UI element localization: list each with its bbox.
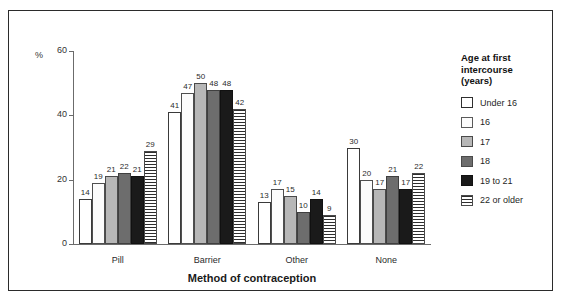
bar[interactable] [412,173,425,244]
bar[interactable] [144,151,157,244]
bar[interactable] [271,189,284,244]
bar-column[interactable]: 21 [386,51,399,244]
legend-swatch-icon [461,97,473,108]
bar-value-label: 17 [375,179,384,187]
x-axis-line [73,244,431,245]
bar-value-label: 29 [146,141,155,149]
bar-column[interactable]: 22 [412,51,425,244]
bar-value-label: 42 [235,99,244,107]
bar-group: 302017211722 [347,51,425,244]
bar-column[interactable]: 22 [118,51,131,244]
x-axis-category-label: None [326,255,446,265]
bar-column[interactable]: 9 [323,51,336,244]
bar[interactable] [92,183,105,244]
bar-group: 141921222129 [79,51,157,244]
bar-column[interactable]: 19 [92,51,105,244]
legend-swatch-icon [461,175,473,186]
y-axis-tick [69,244,74,245]
bar[interactable] [181,93,194,244]
legend-swatch-icon [461,195,473,206]
bar-value-label: 17 [273,179,282,187]
bar-value-label: 22 [414,163,423,171]
y-axis-tick-label: 40 [27,110,67,119]
legend-item-label: Under 16 [480,98,517,108]
chart-frame: % 0204060 141921222129414750484842131715… [8,10,553,291]
bar-value-label: 19 [94,173,103,181]
bar-column[interactable]: 14 [310,51,323,244]
bar[interactable] [258,202,271,244]
bar-value-label: 10 [299,202,308,210]
legend-item-label: 17 [480,137,490,147]
bar-column[interactable]: 17 [399,51,412,244]
bar-column[interactable]: 47 [181,51,194,244]
bar-value-label: 14 [312,189,321,197]
bar-value-label: 22 [120,163,129,171]
bar[interactable] [168,112,181,244]
legend-item[interactable]: 16 [461,114,561,130]
bar-column[interactable]: 17 [373,51,386,244]
bar-column[interactable]: 29 [144,51,157,244]
bar[interactable] [284,196,297,244]
bar-column[interactable]: 21 [131,51,144,244]
bar-column[interactable]: 20 [360,51,373,244]
bar-value-label: 9 [327,205,331,213]
bar-value-label: 50 [196,73,205,81]
bar[interactable] [105,176,118,244]
bar[interactable] [323,215,336,244]
bar-column[interactable]: 15 [284,51,297,244]
bar-value-label: 13 [260,192,269,200]
legend-item-label: 16 [480,117,490,127]
bar[interactable] [194,83,207,244]
legend-items: Under 1616171819 to 2122 or older [461,95,561,209]
bar-value-label: 17 [401,179,410,187]
legend-item[interactable]: 18 [461,153,561,169]
bar[interactable] [386,176,399,244]
bar[interactable] [220,90,233,244]
legend-title-line-3: (years) [461,75,561,87]
legend-item[interactable]: 19 to 21 [461,173,561,189]
bar-column[interactable]: 41 [168,51,181,244]
bar-value-label: 30 [349,138,358,146]
bar-value-label: 20 [362,170,371,178]
bar-column[interactable]: 17 [271,51,284,244]
legend-title: Age at first intercourse (years) [461,52,561,87]
legend-item[interactable]: 22 or older [461,192,561,208]
bar-column[interactable]: 48 [207,51,220,244]
bar-value-label: 15 [286,186,295,194]
bar[interactable] [233,109,246,244]
bar-value-label: 48 [209,80,218,88]
legend: Age at first intercourse (years) Under 1… [461,52,561,212]
legend-title-line-2: intercourse [461,64,561,76]
y-axis-tick-label: 60 [27,46,67,55]
x-axis-title: Method of contraception [73,272,431,284]
bar-column[interactable]: 30 [347,51,360,244]
bar[interactable] [131,176,144,244]
bar[interactable] [373,189,386,244]
bar-column[interactable]: 13 [258,51,271,244]
bar-group: 13171510149 [258,51,336,244]
bar[interactable] [399,189,412,244]
bar-column[interactable]: 48 [220,51,233,244]
bar-column[interactable]: 21 [105,51,118,244]
y-axis-tick-label: 0 [27,239,67,248]
bar-column[interactable]: 14 [79,51,92,244]
bar[interactable] [360,180,373,244]
bar[interactable] [79,199,92,244]
legend-item[interactable]: Under 16 [461,95,561,111]
bar[interactable] [207,90,220,244]
bar-value-label: 21 [133,166,142,174]
bar[interactable] [310,199,323,244]
bar-column[interactable]: 42 [233,51,246,244]
legend-title-line-1: Age at first [461,52,561,64]
bar[interactable] [347,148,360,245]
bar-group: 414750484842 [168,51,246,244]
bar-value-label: 48 [222,80,231,88]
bar-column[interactable]: 10 [297,51,310,244]
legend-item[interactable]: 17 [461,134,561,150]
bar[interactable] [118,173,131,244]
plot-area: 1419212221294147504848421317151014930201… [73,51,431,244]
bar-value-label: 21 [107,166,116,174]
bar[interactable] [297,212,310,244]
bar-column[interactable]: 50 [194,51,207,244]
legend-swatch-icon [461,136,473,147]
